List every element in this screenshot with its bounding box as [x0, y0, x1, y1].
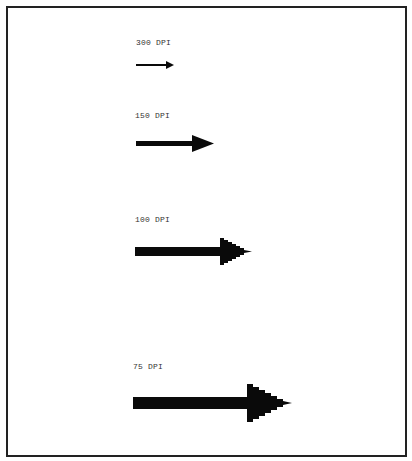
arrow-icon-75-dpi [0, 0, 412, 461]
